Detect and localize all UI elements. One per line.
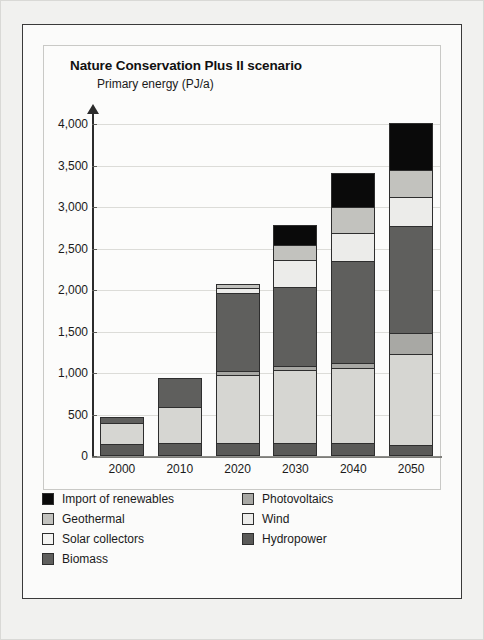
figure-page: Nature Conservation Plus II scenario Pri… [0, 0, 484, 640]
bar-segment-geothermal [273, 245, 317, 260]
bar-segment-solar-collectors [158, 378, 202, 406]
y-axis-tick-label: 2,500 [30, 242, 88, 256]
legend-swatch-icon [42, 493, 54, 505]
bar-segment-hydropower [158, 443, 202, 456]
x-axis-tick-label: 2020 [208, 462, 268, 476]
bar-segment-biomass [158, 407, 202, 444]
chart-title: Nature Conservation Plus II scenario [70, 58, 302, 73]
legend-swatch-icon [42, 513, 54, 525]
y-axis-tick-label: 4,000 [30, 117, 88, 131]
y-axis-tick-label: 0 [30, 449, 88, 463]
y-axis-tick-label: 1,000 [30, 366, 88, 380]
legend-item-geothermal[interactable]: Geothermal [42, 510, 125, 527]
y-axis-tick-label: 500 [30, 408, 88, 422]
bar-segment-solar-collectors [273, 287, 317, 367]
legend-label: Wind [262, 512, 289, 526]
bar-segment-import-of-renewables [389, 123, 433, 170]
plot-area [93, 124, 440, 456]
bar-segment-geothermal [389, 170, 433, 197]
y-axis-ticks: 05001,0001,5002,0002,5003,0003,5004,000 [28, 124, 88, 456]
legend-label: Import of renewables [62, 492, 174, 506]
bar-segment-hydropower [216, 443, 260, 456]
legend-item-photovoltaics[interactable]: Photovoltaics [242, 490, 333, 507]
bar-2000 [100, 417, 144, 456]
bar-2030 [273, 225, 317, 456]
y-axis-tick-label: 1,500 [30, 325, 88, 339]
bar-segment-solar-collectors [216, 293, 260, 371]
legend-swatch-icon [242, 513, 254, 525]
x-axis-tick-label: 2000 [92, 462, 152, 476]
bar-segment-hydropower [273, 443, 317, 456]
bar-segment-photovoltaics [389, 333, 433, 355]
gridline [93, 456, 440, 457]
legend-swatch-icon [42, 533, 54, 545]
bar-2020 [216, 284, 260, 456]
bar-segment-wind [331, 233, 375, 261]
legend-item-biomass[interactable]: Biomass [42, 550, 108, 567]
legend-swatch-icon [242, 493, 254, 505]
bar-2050 [389, 123, 433, 456]
bar-segment-geothermal [331, 207, 375, 233]
y-axis-tick-mark [92, 456, 97, 457]
legend-label: Solar collectors [62, 532, 144, 546]
y-axis-tick-label: 2,000 [30, 283, 88, 297]
legend-item-wind[interactable]: Wind [242, 510, 289, 527]
bar-segment-solar-collectors [389, 226, 433, 333]
legend-item-solar-collectors[interactable]: Solar collectors [42, 530, 144, 547]
bar-segment-hydropower [389, 445, 433, 456]
bar-segment-biomass [331, 368, 375, 443]
bar-segment-hydropower [331, 443, 375, 456]
x-axis-tick-label: 2040 [323, 462, 383, 476]
y-axis-tick-label: 3,500 [30, 159, 88, 173]
x-axis-tick-label: 2030 [265, 462, 325, 476]
legend-swatch-icon [242, 533, 254, 545]
legend-label: Hydropower [262, 532, 327, 546]
bar-segment-import-of-renewables [331, 173, 375, 207]
bar-2040 [331, 173, 375, 456]
y-axis-label: Primary energy (PJ/a) [97, 77, 214, 91]
bar-segment-import-of-renewables [273, 225, 317, 245]
bar-segment-biomass [216, 375, 260, 443]
x-axis-tick-label: 2050 [381, 462, 441, 476]
legend-item-import-of-renewables[interactable]: Import of renewables [42, 490, 174, 507]
bar-segment-wind [273, 260, 317, 287]
chart-legend: Import of renewablesGeothermalSolar coll… [42, 490, 422, 570]
bar-segment-biomass [273, 370, 317, 443]
bar-segment-hydropower [100, 444, 144, 456]
bar-segment-solar-collectors [331, 261, 375, 363]
bar-2010 [158, 378, 202, 456]
bar-segment-biomass [389, 354, 433, 444]
legend-label: Photovoltaics [262, 492, 333, 506]
x-axis-tick-label: 2010 [150, 462, 210, 476]
bar-segment-biomass [100, 423, 144, 444]
legend-swatch-icon [42, 553, 54, 565]
bar-segment-wind [389, 197, 433, 225]
legend-label: Geothermal [62, 512, 125, 526]
y-axis-tick-label: 3,000 [30, 200, 88, 214]
legend-item-hydropower[interactable]: Hydropower [242, 530, 327, 547]
legend-label: Biomass [62, 552, 108, 566]
